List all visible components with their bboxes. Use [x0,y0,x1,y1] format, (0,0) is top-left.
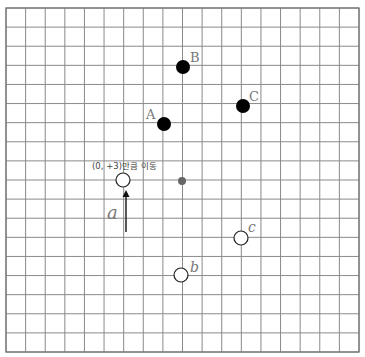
point-b [174,268,188,282]
label-B: B [190,50,200,65]
grid-canvas: A B C b c a (0, +3)만큼 이동 [0,0,365,357]
translation-note: (0, +3)만큼 이동 [92,161,157,171]
point-c [234,231,248,245]
coordinate-grid-diagram: A B C b c a (0, +3)만큼 이동 [0,0,365,357]
point-A [157,117,171,131]
label-c: c [248,219,256,235]
arrow-label-a: a [107,202,118,223]
point-B [176,60,190,74]
label-C: C [249,89,259,104]
label-A: A [145,107,156,122]
point-a [116,173,130,187]
point-C [236,99,250,113]
label-b: b [190,259,199,275]
center-point [178,177,186,185]
